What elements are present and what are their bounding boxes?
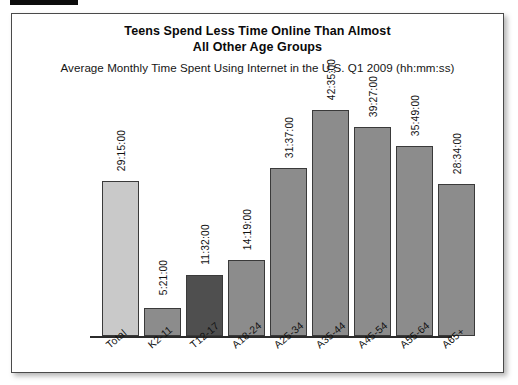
chart-title-block: Teens Spend Less Time Online Than Almost… [12,23,503,76]
chart-title-line-2: All Other Age Groups [12,39,503,55]
bar-value-label: 42:35:00 [325,54,336,106]
bar-value-label: 39:27:00 [367,71,378,123]
bar-group: 14:19:00 [228,100,265,336]
x-axis-line [90,336,452,338]
bar-group: 42:35:00 [312,100,349,336]
bar-value-label: 5:21:00 [157,252,168,304]
bar-group: 31:37:00 [270,100,307,336]
bar-a45-54 [354,127,391,336]
bar-value-label: 29:15:00 [115,125,126,177]
bar-value-label: 28:34:00 [451,128,462,180]
bar-value-label: 14:19:00 [241,204,252,256]
bar-group: 11:32:00 [186,100,223,336]
bar-value-label: 11:32:00 [199,219,210,271]
chart-subtitle: Average Monthly Time Spent Using Interne… [12,60,503,76]
bar-group: 35:49:00 [396,100,433,336]
bar-group: 39:27:00 [354,100,391,336]
bar-group: 29:15:00 [102,100,139,336]
chart-frame: Teens Spend Less Time Online Than Almost… [11,13,504,373]
bar-a35-44 [312,110,349,336]
chart-title-line-1: Teens Spend Less Time Online Than Almost [12,23,503,39]
bar-a25-34 [270,168,307,336]
bar-value-label: 35:49:00 [409,90,420,142]
bar-group: 28:34:00 [438,100,475,336]
bar-group: 5:21:00 [144,100,181,336]
bar-a55-64 [396,146,433,336]
bar-a65 [438,184,475,336]
bar-total [102,181,139,336]
scan-artifact-bar [10,0,78,5]
bar-value-label: 31:37:00 [283,112,294,164]
